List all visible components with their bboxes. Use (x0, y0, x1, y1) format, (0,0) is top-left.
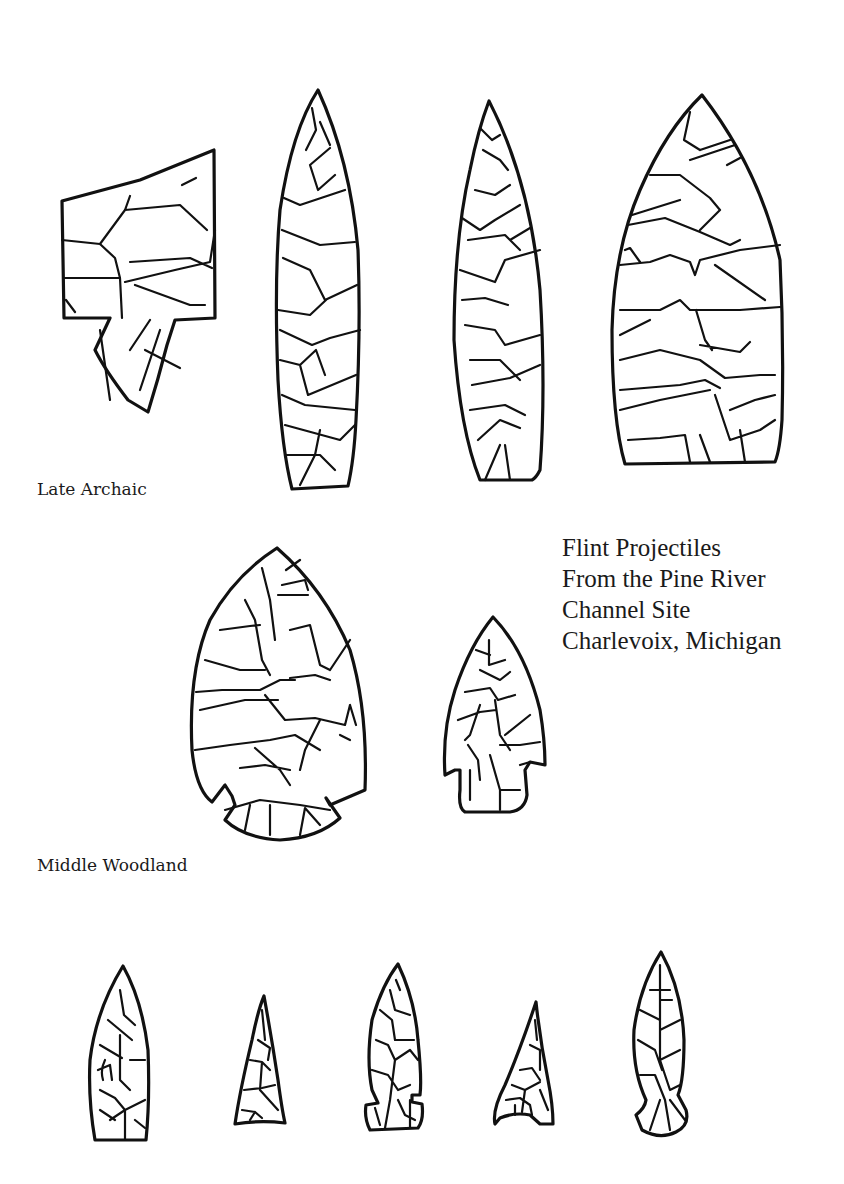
bottom-row-point-4 (494, 1002, 553, 1124)
title-line-4: Charlevoix, Michigan (562, 625, 781, 656)
title-line-2: From the Pine River (562, 563, 781, 594)
bottom-row-point-1 (90, 966, 149, 1140)
late-archaic-point-1 (62, 150, 215, 412)
page-title: Flint Projectiles From the Pine River Ch… (562, 532, 781, 656)
section-label-late-archaic: Late Archaic (37, 481, 147, 498)
title-line-1: Flint Projectiles (562, 532, 781, 563)
middle-woodland-point-1 (191, 548, 365, 840)
middle-woodland-point-2 (444, 617, 545, 812)
bottom-row-point-3 (366, 964, 423, 1130)
bottom-row-point-2 (235, 996, 285, 1124)
section-label-middle-woodland: Middle Woodland (37, 857, 188, 874)
bottom-row-point-5 (634, 952, 687, 1136)
title-line-3: Channel Site (562, 594, 781, 625)
late-archaic-point-4 (612, 95, 783, 464)
late-archaic-point-2 (276, 90, 360, 489)
late-archaic-point-3 (454, 101, 543, 480)
illustration-page: Late Archaic Middle Woodland Flint Proje… (0, 0, 844, 1184)
